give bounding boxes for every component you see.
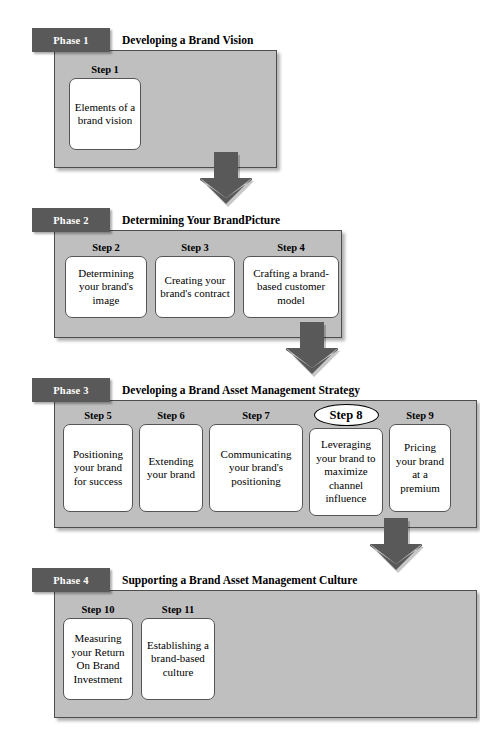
phase-2-tag: Phase 2 (32, 208, 110, 232)
phase-4-body: Step 10 Measuring your Return On Brand I… (54, 590, 477, 718)
phase-3-body: Step 5 Positioning your brand for succes… (54, 400, 477, 528)
step-1-box[interactable]: Elements of a brand vision (69, 78, 141, 150)
step-10-column[interactable]: Step 10 Measuring your Return On Brand I… (63, 601, 133, 700)
phase-2-title: Determining Your BrandPicture (122, 208, 280, 232)
phase-2-group: Phase 2 Determining Your BrandPicture St… (32, 208, 432, 338)
step-11-column[interactable]: Step 11 Establishing a brand-based cultu… (141, 601, 215, 700)
step-7-label: Step 7 (242, 407, 270, 424)
step-7-box[interactable]: Communicating your brand's positioning (209, 424, 303, 512)
step-9-label: Step 9 (406, 407, 434, 424)
phase-4-tag: Phase 4 (32, 568, 110, 592)
phase-2-steps-row: Step 2 Determining your brand's image St… (65, 239, 339, 318)
step-1-column[interactable]: Step 1 Elements of a brand vision (69, 61, 141, 150)
phase-4-steps-row: Step 10 Measuring your Return On Brand I… (63, 601, 215, 700)
phase-1-title: Developing a Brand Vision (122, 28, 253, 52)
step-9-column[interactable]: Step 9 Pricing your brand at a premium (389, 407, 451, 512)
step-2-label: Step 2 (92, 239, 120, 256)
phase-1-group: Phase 1 Developing a Brand Vision Step 1… (32, 28, 277, 168)
step-4-column[interactable]: Step 4 Crafting a brand-based customer m… (243, 239, 339, 318)
step-3-box[interactable]: Creating your brand's contract (155, 256, 235, 318)
phase-3-header: Phase 3 Developing a Brand Asset Managem… (32, 378, 360, 402)
step-2-column[interactable]: Step 2 Determining your brand's image (65, 239, 147, 318)
step-1-label: Step 1 (91, 61, 119, 78)
phase-3-title: Developing a Brand Asset Management Stra… (122, 378, 360, 402)
phase-2-header: Phase 2 Determining Your BrandPicture (32, 208, 280, 232)
phase-3-group: Phase 3 Developing a Brand Asset Managem… (32, 378, 462, 538)
step-6-label: Step 6 (157, 407, 185, 424)
phase-4-group: Phase 4 Supporting a Brand Asset Managem… (32, 568, 462, 718)
phase-1-header: Phase 1 Developing a Brand Vision (32, 28, 253, 52)
step-9-box[interactable]: Pricing your brand at a premium (389, 424, 451, 512)
phase-4-title: Supporting a Brand Asset Management Cult… (122, 568, 357, 592)
step-5-box[interactable]: Positioning your brand for success (63, 424, 133, 512)
step-8-label-highlighted: Step 8 (314, 404, 379, 426)
phase-3-tag: Phase 3 (32, 378, 110, 402)
step-5-column[interactable]: Step 5 Positioning your brand for succes… (63, 407, 133, 512)
step-4-box[interactable]: Crafting a brand-based customer model (243, 256, 339, 318)
step-6-box[interactable]: Extending your brand (139, 424, 203, 512)
phase-1-steps-row: Step 1 Elements of a brand vision (69, 61, 141, 150)
step-4-label: Step 4 (277, 239, 305, 256)
phase-1-body: Step 1 Elements of a brand vision (54, 50, 277, 168)
step-10-box[interactable]: Measuring your Return On Brand Investmen… (63, 618, 133, 700)
phase-1-tag: Phase 1 (32, 28, 110, 52)
arrow-phase1-to-phase2 (196, 152, 256, 210)
step-8-box[interactable]: Leveraging your brand to maximize channe… (309, 428, 383, 516)
step-11-label: Step 11 (162, 601, 194, 618)
step-6-column[interactable]: Step 6 Extending your brand (139, 407, 203, 512)
phase-4-header: Phase 4 Supporting a Brand Asset Managem… (32, 568, 357, 592)
step-3-column[interactable]: Step 3 Creating your brand's contract (155, 239, 235, 318)
step-2-box[interactable]: Determining your brand's image (65, 256, 147, 318)
arrow-phase2-to-phase3 (282, 322, 342, 380)
step-8-column[interactable]: Step 8 Leveraging your brand to maximize… (309, 407, 383, 516)
brand-asset-management-flow-diagram: Phase 1 Developing a Brand Vision Step 1… (0, 0, 480, 738)
step-7-column[interactable]: Step 7 Communicating your brand's positi… (209, 407, 303, 512)
step-3-label: Step 3 (181, 239, 209, 256)
step-5-label: Step 5 (84, 407, 112, 424)
step-11-box[interactable]: Establishing a brand-based culture (141, 618, 215, 700)
step-10-label: Step 10 (82, 601, 115, 618)
phase-3-steps-row: Step 5 Positioning your brand for succes… (63, 407, 451, 516)
